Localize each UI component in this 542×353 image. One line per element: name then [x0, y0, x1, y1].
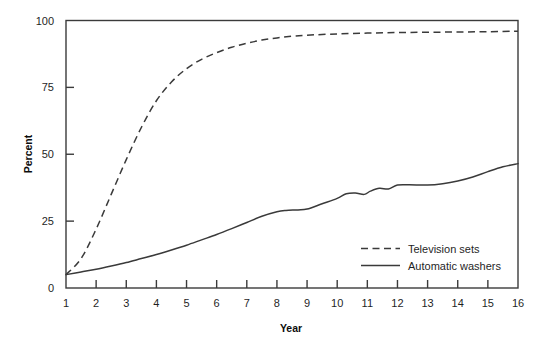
- x-tick-label-13: 13: [421, 297, 433, 309]
- x-tick-label-1: 1: [63, 297, 69, 309]
- x-tick-label-10: 10: [331, 297, 343, 309]
- chart-figure: 0255075100 12345678910111213141516 Perce…: [0, 0, 542, 353]
- x-tick-label-6: 6: [214, 297, 220, 309]
- x-tick-label-2: 2: [93, 297, 99, 309]
- y-tick-label-50: 50: [42, 148, 54, 160]
- y-tick-label-75: 75: [42, 81, 54, 93]
- y-tick-label-0: 0: [48, 282, 54, 294]
- x-tick-label-5: 5: [183, 297, 189, 309]
- y-axis-title: Percent: [22, 134, 34, 173]
- x-tick-label-9: 9: [304, 297, 310, 309]
- x-tick-label-3: 3: [123, 297, 129, 309]
- y-tick-label-100: 100: [36, 15, 54, 27]
- x-tick-label-16: 16: [512, 297, 524, 309]
- x-tick-label-4: 4: [153, 297, 159, 309]
- x-tick-label-14: 14: [452, 297, 464, 309]
- y-tick-label-25: 25: [42, 215, 54, 227]
- line-chart-canvas: 0255075100 12345678910111213141516 Perce…: [0, 0, 542, 353]
- x-tick-label-7: 7: [244, 297, 250, 309]
- x-tick-label-11: 11: [362, 297, 373, 309]
- legend-label-television-sets: Television sets: [408, 243, 480, 255]
- x-axis-title: Year: [280, 322, 302, 334]
- x-tick-label-8: 8: [274, 297, 280, 309]
- x-tick-label-15: 15: [482, 297, 494, 309]
- x-tick-label-12: 12: [391, 297, 403, 309]
- legend-label-automatic-washers: Automatic washers: [408, 260, 501, 272]
